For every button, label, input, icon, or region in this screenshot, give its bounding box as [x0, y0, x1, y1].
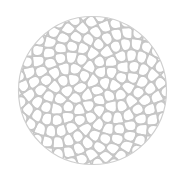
cell: [120, 38, 131, 50]
cell: [120, 9, 139, 27]
cell: [135, 124, 147, 135]
cell: [43, 48, 55, 59]
cell: [32, 56, 44, 67]
cell: [32, 45, 44, 56]
cell: [66, 52, 78, 64]
cell: [32, 16, 50, 36]
cell: [93, 4, 106, 23]
cell: [117, 61, 129, 73]
cell: [145, 135, 162, 153]
cell: [161, 84, 179, 97]
cell: [134, 114, 146, 125]
cell: [147, 113, 158, 125]
cell: [7, 71, 25, 83]
pattern-image: [0, 0, 183, 187]
cell: [6, 53, 23, 71]
cell: [142, 23, 161, 42]
cell: [121, 27, 133, 38]
cell-network: [4, 2, 181, 179]
cell: [34, 147, 53, 165]
cell: [53, 136, 64, 148]
phyllotaxis-pattern: [0, 0, 183, 187]
cell: [15, 39, 32, 57]
